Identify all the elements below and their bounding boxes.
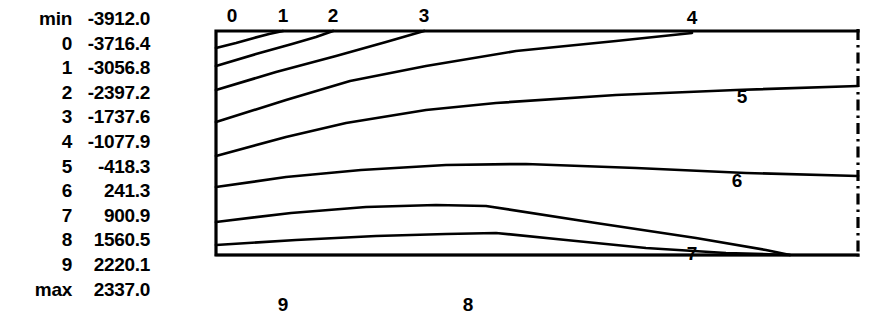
- legend-value: -3056.8: [72, 57, 150, 79]
- legend-row: max 2337.0: [0, 279, 175, 304]
- legend-value: -3716.4: [72, 33, 150, 55]
- contour-figure: min -3912.0 0 -3716.4 1 -3056.8 2 -2397.…: [0, 0, 873, 329]
- legend-key: 1: [0, 57, 72, 79]
- legend-value: -1077.9: [72, 131, 150, 153]
- legend-key: max: [0, 279, 72, 301]
- contour-label-2: 2: [328, 5, 339, 26]
- contour-line-7: [216, 205, 790, 255]
- legend-value: 241.3: [72, 180, 150, 202]
- legend-value: 2337.0: [72, 279, 150, 301]
- contour-label-9: 9: [278, 294, 289, 315]
- legend-key: 2: [0, 82, 72, 104]
- contour-label-1: 1: [278, 5, 289, 26]
- legend-key: min: [0, 8, 72, 30]
- contour-label-4: 4: [687, 7, 698, 28]
- contour-label-8: 8: [463, 294, 474, 315]
- legend-row: 9 2220.1: [0, 254, 175, 279]
- contour-label-6: 6: [732, 170, 743, 191]
- legend-value: -1737.6: [72, 106, 150, 128]
- contour-label-5: 5: [737, 86, 748, 107]
- legend-row: 3 -1737.6: [0, 106, 175, 131]
- plot-frame-border: [216, 31, 858, 255]
- legend-value: -3912.0: [72, 8, 150, 30]
- contour-plot-domain: 0 1 2 3 4 5 6 7 8 9: [196, 0, 873, 329]
- legend-value: 900.9: [72, 205, 150, 227]
- contour-line-8: [216, 233, 790, 255]
- contour-label-3: 3: [419, 5, 430, 26]
- contour-level-legend: min -3912.0 0 -3716.4 1 -3056.8 2 -2397.…: [0, 8, 175, 303]
- legend-value: -2397.2: [72, 82, 150, 104]
- legend-value: -418.3: [72, 156, 150, 178]
- legend-key: 6: [0, 180, 72, 202]
- legend-row: 5 -418.3: [0, 156, 175, 181]
- contour-line-1: [216, 31, 283, 48]
- contour-line-6: [216, 164, 858, 187]
- legend-row: min -3912.0: [0, 8, 175, 33]
- contour-line-group: [216, 31, 858, 255]
- legend-value: 1560.5: [72, 229, 150, 251]
- legend-key: 0: [0, 33, 72, 55]
- legend-row: 8 1560.5: [0, 229, 175, 254]
- legend-row: 6 241.3: [0, 180, 175, 205]
- legend-key: 4: [0, 131, 72, 153]
- legend-row: 4 -1077.9: [0, 131, 175, 156]
- legend-row: 0 -3716.4: [0, 33, 175, 58]
- legend-row: 1 -3056.8: [0, 57, 175, 82]
- contour-label-0: 0: [227, 5, 238, 26]
- legend-key: 8: [0, 229, 72, 251]
- legend-value: 2220.1: [72, 254, 150, 276]
- contour-line-5: [216, 86, 858, 156]
- legend-row: 2 -2397.2: [0, 82, 175, 107]
- contour-label-7: 7: [687, 243, 698, 264]
- legend-key: 9: [0, 254, 72, 276]
- legend-row: 7 900.9: [0, 205, 175, 230]
- legend-key: 5: [0, 156, 72, 178]
- legend-key: 7: [0, 205, 72, 227]
- legend-key: 3: [0, 106, 72, 128]
